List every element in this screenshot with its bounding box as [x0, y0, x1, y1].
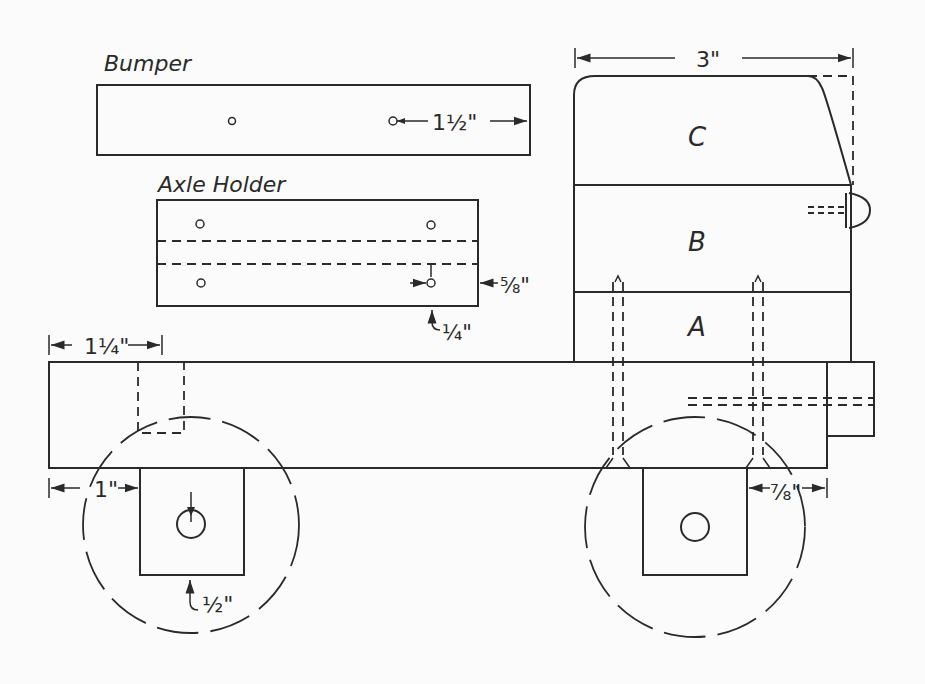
bumper-part: Bumper 1½": [97, 51, 530, 155]
axle-bottom-dim: ½": [202, 592, 233, 617]
chassis-part: 1¼": [49, 282, 874, 468]
axle-holder-part: Axle Holder ⅝" ¼": [156, 172, 530, 345]
axle-holder-hole-dim: ¼": [442, 321, 472, 345]
bumper-hole-dim: 1½": [432, 110, 477, 135]
chassis-holder-offset-dim: 1¼": [84, 334, 129, 359]
front-wheel: 1" ½": [49, 417, 299, 633]
rear-offset-dim: ⅞": [770, 480, 801, 505]
block-b-label: B: [688, 227, 706, 257]
bumper-label: Bumper: [104, 51, 193, 76]
front-offset-dim: 1": [94, 477, 118, 502]
block-a-label: A: [686, 312, 706, 342]
axle-holder-label: Axle Holder: [156, 172, 287, 197]
block-c-label: C: [688, 122, 707, 152]
truck-drawing: Bumper 1½" Axle Holder ⅝" ¼" 3": [0, 0, 925, 684]
axle-holder-edge-dim: ⅝": [500, 274, 530, 298]
cab-width-dim: 3": [696, 47, 720, 72]
cab-part: 3" C B A: [574, 47, 870, 362]
rear-wheel: ⅞": [585, 417, 827, 637]
